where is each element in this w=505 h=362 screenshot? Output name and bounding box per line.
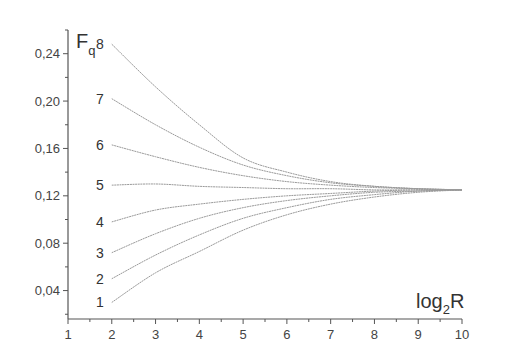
curve-label-5: 5	[96, 177, 104, 193]
y-tick-label: 0,16	[35, 141, 60, 156]
x-tick-label: 4	[196, 327, 203, 342]
curves	[112, 44, 462, 302]
curve-labels: 12345678	[96, 36, 104, 310]
line-chart: 123456789100,040,080,120,160,200,24 1234…	[0, 0, 505, 362]
x-tick-label: 10	[455, 327, 469, 342]
curve-label-6: 6	[96, 137, 104, 153]
x-tick-label: 2	[108, 327, 115, 342]
y-axis-title: Fq	[76, 30, 95, 58]
curve-2	[112, 190, 462, 279]
curve-3	[112, 190, 462, 253]
curve-6	[112, 145, 462, 190]
x-tick-label: 5	[239, 327, 246, 342]
y-tick-label: 0,04	[35, 283, 60, 298]
curve-label-2: 2	[96, 271, 104, 287]
x-tick-label: 3	[152, 327, 159, 342]
curve-label-4: 4	[96, 214, 104, 230]
curve-label-8: 8	[96, 36, 104, 52]
y-tick-label: 0,20	[35, 94, 60, 109]
x-tick-label: 1	[64, 327, 71, 342]
x-tick-label: 7	[327, 327, 334, 342]
curve-5	[112, 184, 462, 190]
x-tick-label: 9	[415, 327, 422, 342]
curve-7	[112, 99, 462, 190]
curve-label-1: 1	[96, 294, 104, 310]
curve-label-7: 7	[96, 91, 104, 107]
x-tick-label: 6	[283, 327, 290, 342]
y-tick-label: 0,12	[35, 188, 60, 203]
x-axis-title: log2R	[416, 290, 464, 317]
curve-1	[112, 190, 462, 303]
y-tick-label: 0,08	[35, 236, 60, 251]
curve-label-3: 3	[96, 245, 104, 261]
curve-8	[112, 44, 462, 190]
y-tick-label: 0,24	[35, 46, 60, 61]
x-tick-label: 8	[371, 327, 378, 342]
curve-4	[112, 190, 462, 222]
